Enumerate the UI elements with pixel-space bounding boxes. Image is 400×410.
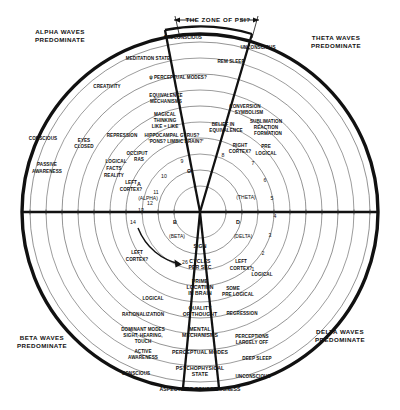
diagram-label: SUBLIMATION	[250, 119, 283, 124]
diagram-label: SYMBOLISM	[235, 110, 263, 115]
beta-sector-labels: LEFTCORTEX?LOGICALRATIONALIZATIONDOMINAN…	[121, 250, 165, 376]
diagram-label: 6	[264, 177, 267, 183]
diagram-label: REACTION	[254, 125, 279, 130]
diagram-label: 'PONS? LIMBIC BRAIN?'	[149, 139, 204, 144]
diagram-label: REM SLEEP	[218, 59, 245, 64]
diagram-label: 26	[182, 259, 188, 265]
diagram-label: 10	[161, 173, 167, 179]
diagram-label: PERCEPTIONS	[235, 334, 268, 339]
center-column-labels: SIGNCYCLESPER SECPRIMELOCATIONIN BRAINQU…	[159, 243, 241, 392]
diagram-label: UNCONSCIOUS	[235, 374, 270, 379]
diagram-label: PRE LOGICAL	[222, 292, 254, 297]
diagram-label: LEFT	[131, 250, 143, 255]
diagram-label: PRECONSCIOUS	[164, 35, 202, 40]
diagram-label: UNCONSCIOUS	[240, 45, 275, 50]
diagram-label: REPRESSION	[107, 133, 138, 138]
diagram-label: BELIEF IN	[212, 122, 235, 127]
diagram-label: CORTEX?	[229, 149, 251, 154]
quadrant-label-theta-sub: PREDOMINATE	[311, 42, 361, 49]
wave-symbol: B	[173, 219, 177, 225]
diagram-label: RIGHT	[233, 143, 248, 148]
diagram-label: CONVERSION	[229, 104, 261, 109]
diagram-label: AWARENESS	[128, 355, 158, 360]
diagram-label: SOME	[226, 286, 240, 291]
diagram-label: 3	[269, 232, 272, 238]
diagram-label: LEFT	[235, 259, 247, 264]
diagram-label: LIKE = LIKE	[152, 124, 179, 129]
quadrant-label-beta: BETA WAVES	[20, 334, 64, 341]
zone-of-psi-label: THE ZONE OF PSI?	[185, 16, 250, 23]
diagram-label: CREATIVITY	[93, 84, 120, 89]
diagram-label: FORMATION	[254, 131, 283, 136]
diagram-label: TOUCH	[135, 339, 152, 344]
diagram-label: 9	[181, 158, 184, 164]
wave-symbol: A	[137, 181, 141, 187]
diagram-label: PER SEC	[188, 264, 211, 270]
diagram-label: HIPPOCAMPAL GYRUS?	[145, 133, 200, 138]
diagram-label: EYES	[78, 138, 90, 143]
diagram-label: SIGHT, HEARING,	[123, 333, 162, 338]
quadrant-label-delta: DELTA WAVES	[316, 328, 364, 335]
diagram-label: 4	[274, 213, 277, 219]
diagram-label: FACTS	[106, 166, 121, 171]
wave-name: (BETA)	[169, 233, 185, 239]
diagram-label: 1	[252, 266, 255, 272]
diagram-label: LOGICAL	[105, 159, 126, 164]
diagram-label: CORTEX?	[230, 266, 252, 271]
quadrant-label-beta-sub: PREDOMINATE	[17, 342, 67, 349]
diagram-label: ASPECTS OF CONSCIOUSNESS	[159, 386, 241, 392]
diagram-label: IN BRAIN	[188, 290, 212, 296]
diagram-label: ACTIVE	[134, 349, 151, 354]
diagram-canvas: THE ZONE OF PSI? ALPHA WAVESPREDOMINATET…	[0, 0, 400, 410]
diagram-label: AWARENESS	[32, 169, 62, 174]
diagram-label: MECHANISMS	[150, 99, 182, 104]
quadrant-label-alpha-sub: PREDOMINATE	[35, 36, 85, 43]
diagram-label: MAGICAL	[154, 112, 176, 117]
diagram-label: 5	[271, 195, 274, 201]
diagram-label: 14	[130, 219, 136, 225]
diagram-label: LOGICAL	[142, 296, 163, 301]
diagram-label: LARGELY OFF	[236, 340, 269, 345]
diagram-label: MECHANISMS	[182, 332, 218, 338]
diagram-label: 13	[138, 207, 144, 213]
wave-name: (ALPHA)	[138, 195, 158, 201]
diagram-label: THINKING	[154, 118, 177, 123]
diagram-label: OCCIPUT	[126, 151, 147, 156]
diagram-label: LEFT	[125, 180, 137, 185]
quadrant-label-alpha: ALPHA WAVES	[35, 28, 85, 35]
diagram-label: STATE	[192, 371, 209, 377]
diagram-label: MEDITATION STATE	[126, 56, 170, 61]
wave-symbol: D	[236, 219, 240, 225]
diagram-label: OF THOUGHT	[183, 311, 218, 317]
diagram-label: CONSCIOUS	[122, 371, 150, 376]
diagram-label: ψ PERCEPTUAL MODES?	[149, 75, 207, 80]
diagram-label: PASSIVE	[37, 162, 57, 167]
diagram-label: CORTEX?	[126, 257, 148, 262]
delta-sector-labels: LEFTCORTEX?LOGICALSOMEPRE LOGICALREGRESS…	[222, 259, 273, 379]
diagram-label: EQUIVALENCE	[149, 93, 182, 98]
diagram-label: DOMINANT MODES	[121, 327, 165, 332]
diagram-label: DEEP SLEEP	[242, 356, 271, 361]
wave-name: (DELTA)	[234, 233, 253, 239]
quadrant-label-delta-sub: PREDOMINATE	[315, 336, 365, 343]
diagram-label: CORTEX?	[120, 187, 142, 192]
diagram-label: SIGN	[194, 243, 207, 249]
diagram-label: REALITY	[104, 173, 124, 178]
diagram-label: 2	[262, 250, 265, 256]
diagram-label: CONSCIOUS	[29, 136, 57, 141]
diagram-label: 8	[222, 152, 225, 158]
quadrant-label-theta: THETA WAVES	[312, 34, 361, 41]
wave-name: (THETA)	[236, 194, 256, 200]
greek-wave-labels: A(ALPHA)Θ(THETA)B(BETA)D(DELTA)	[137, 168, 256, 239]
diagram-label: PRE	[261, 144, 271, 149]
diagram-label: EQUIVALENCE	[209, 128, 242, 133]
wave-symbol: Θ	[187, 168, 191, 174]
diagram-label: LOGICAL	[251, 272, 272, 277]
diagram-label: RAS	[134, 157, 144, 162]
diagram-label: PERCEPTUAL MODES	[172, 349, 229, 355]
diagram-label: REGRESSION	[226, 311, 258, 316]
consciousness-wheel-diagram: THE ZONE OF PSI? ALPHA WAVESPREDOMINATET…	[0, 0, 400, 410]
diagram-label: RATIONALIZATION	[122, 312, 165, 317]
diagram-label: CLOSED	[74, 144, 94, 149]
diagram-label: LOGICAL	[255, 151, 276, 156]
